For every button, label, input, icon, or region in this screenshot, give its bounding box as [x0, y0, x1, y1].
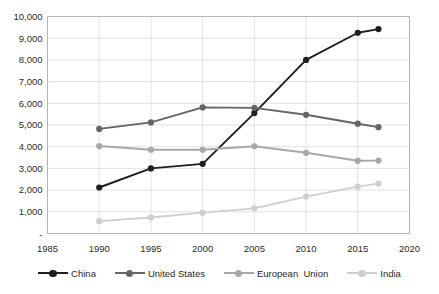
legend-label: India — [380, 268, 401, 279]
legend-label: China — [71, 268, 96, 279]
series-line-united-states — [99, 107, 378, 128]
legend-marker-icon — [347, 268, 377, 278]
chart-plot-area: -1,0002,0003,0004,0005,0006,0007,0008,00… — [0, 0, 439, 294]
data-point — [96, 126, 102, 132]
y-tick-label: 2,000 — [19, 184, 43, 195]
y-axis-tick-labels: -1,0002,0003,0004,0005,0006,0007,0008,00… — [13, 11, 42, 240]
data-point — [375, 26, 381, 32]
legend-marker-icon — [224, 268, 254, 278]
data-point — [355, 184, 361, 190]
x-tick-label: 1990 — [89, 243, 110, 254]
series-line-european-union — [99, 146, 378, 161]
data-point — [355, 30, 361, 36]
y-tick-label: 9,000 — [19, 33, 43, 44]
data-point — [251, 205, 257, 211]
y-tick-label: - — [39, 229, 42, 240]
y-tick-label: 1,000 — [19, 206, 43, 217]
chart-legend: ChinaUnited StatesEuropean UnionIndia — [0, 262, 439, 284]
data-point — [96, 184, 102, 190]
data-point — [200, 147, 206, 153]
y-tick-label: 4,000 — [19, 141, 43, 152]
data-point — [303, 57, 309, 63]
legend-item-china[interactable]: China — [38, 268, 96, 279]
x-tick-label: 2015 — [347, 243, 368, 254]
y-tick-label: 7,000 — [19, 76, 43, 87]
data-point — [355, 121, 361, 127]
data-point — [375, 124, 381, 130]
line-chart: -1,0002,0003,0004,0005,0006,0007,0008,00… — [0, 0, 439, 294]
data-point — [251, 105, 257, 111]
legend-item-united-states[interactable]: United States — [115, 268, 205, 279]
data-point — [148, 119, 154, 125]
x-tick-label: 2020 — [399, 243, 420, 254]
y-tick-label: 6,000 — [19, 98, 43, 109]
legend-marker-icon — [115, 268, 145, 278]
data-point — [303, 112, 309, 118]
x-tick-label: 2000 — [192, 243, 213, 254]
x-axis-tick-labels: 19851990199520002005201020152020 — [37, 243, 420, 254]
data-point — [375, 180, 381, 186]
y-tick-label: 8,000 — [19, 54, 43, 65]
legend-label: United States — [148, 268, 205, 279]
data-point — [303, 150, 309, 156]
legend-marker-icon — [38, 268, 68, 278]
x-tick-label: 2005 — [244, 243, 265, 254]
x-tick-label: 2010 — [296, 243, 317, 254]
data-point — [148, 165, 154, 171]
legend-label: European Union — [257, 268, 328, 279]
data-point — [96, 218, 102, 224]
data-point — [96, 143, 102, 149]
data-point — [200, 161, 206, 167]
data-point — [200, 104, 206, 110]
legend-item-india[interactable]: India — [347, 268, 401, 279]
legend-item-european-union[interactable]: European Union — [224, 268, 328, 279]
x-tick-label: 1985 — [37, 243, 58, 254]
data-point — [148, 147, 154, 153]
series-line-india — [99, 184, 378, 222]
data-point — [148, 214, 154, 220]
data-point — [251, 143, 257, 149]
data-point — [355, 158, 361, 164]
y-tick-label: 10,000 — [13, 11, 42, 22]
y-tick-label: 5,000 — [19, 119, 43, 130]
x-tick-label: 1995 — [140, 243, 161, 254]
y-tick-label: 3,000 — [19, 163, 43, 174]
data-point — [200, 210, 206, 216]
data-point — [303, 194, 309, 200]
data-point — [375, 157, 381, 163]
